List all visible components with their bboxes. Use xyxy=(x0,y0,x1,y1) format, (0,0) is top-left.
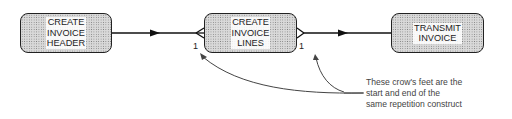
box-label: CREATE INVOICE HEADER xyxy=(46,17,86,49)
annotation-arrow-end xyxy=(316,58,344,92)
multiplicity-start-label: 1 xyxy=(193,41,198,51)
process-box-create-invoice-header[interactable]: CREATE INVOICE HEADER xyxy=(20,13,112,53)
box-label: CREATE INVOICE LINES xyxy=(231,17,271,49)
arrowhead-icon xyxy=(150,30,160,37)
box-label: TRANSMIT INVOICE xyxy=(413,23,462,44)
process-box-transmit-invoice[interactable]: TRANSMIT INVOICE xyxy=(391,13,484,53)
annotation-text: These crow's feet are the start and end … xyxy=(366,77,462,111)
annotation-arrow-start xyxy=(203,57,363,93)
process-box-create-invoice-lines[interactable]: CREATE INVOICE LINES xyxy=(204,13,297,53)
multiplicity-end-label: 1 xyxy=(299,41,304,51)
arrowhead-icon xyxy=(338,30,348,37)
crows-foot-start-icon xyxy=(196,28,204,38)
arrowhead-icon xyxy=(313,54,319,60)
crows-foot-end-icon xyxy=(297,28,304,38)
